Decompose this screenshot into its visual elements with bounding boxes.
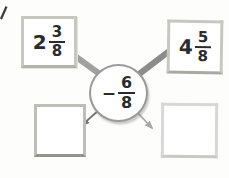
denominator: 8	[121, 94, 132, 112]
denominator: 8	[197, 48, 208, 65]
answer-value-1	[59, 130, 61, 132]
mixed-number-1: 2 3 8	[33, 24, 65, 60]
fraction: 5 8	[194, 29, 211, 65]
input-box-1: 2 3 8	[21, 16, 77, 68]
whole-number: 4	[179, 35, 193, 59]
whole-number: 2	[33, 30, 47, 54]
fraction: 3 8	[49, 24, 65, 60]
cropped-edge-glyph	[1, 7, 7, 20]
mixed-number-2: 4 5 8	[179, 29, 212, 65]
subtraction-machine-diagram: 2 3 8 4 5 8 − 6 8	[0, 0, 229, 178]
answer-box-2[interactable]	[161, 103, 218, 158]
answer-box-1[interactable]	[34, 104, 86, 157]
fraction: 6 8	[118, 74, 135, 112]
input-box-2: 4 5 8	[167, 20, 224, 75]
answer-value-2	[188, 129, 190, 131]
numerator: 5	[195, 29, 212, 48]
denominator: 8	[52, 43, 62, 60]
operation-expression: − 6 8	[102, 74, 135, 112]
minus-sign: −	[102, 83, 116, 103]
arrow-circle-to-answer2	[137, 112, 152, 128]
numerator: 6	[118, 74, 135, 94]
numerator: 3	[49, 24, 65, 43]
operation-circle: − 6 8	[89, 64, 148, 122]
